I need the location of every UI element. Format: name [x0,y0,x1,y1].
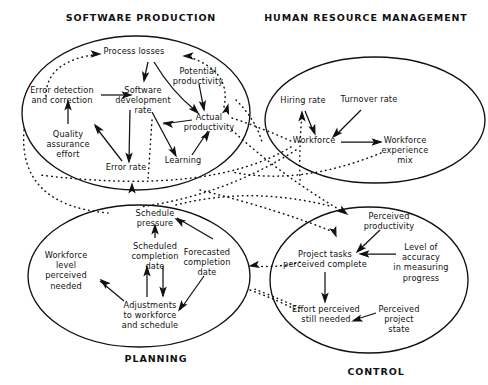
node-line: date [145,261,164,271]
node-hiring-rate: Hiring rate [280,95,325,105]
sector-title-software-production: SOFTWARE PRODUCTION [66,12,216,23]
arrowhead-ah-hiring-rate-bottom [299,112,304,120]
node-schedule-pressure: Schedulepressure [136,208,175,228]
node-line: Level of [404,242,438,252]
arrowhead-ah-project-tasks-from-acc [360,251,368,256]
dotted-link-actual-prod-to-workforce [232,118,291,141]
arrowheads-group [65,51,381,323]
node-line: Forecasted [184,247,230,257]
arrowhead-ah-adjust-from-sched-date [160,288,165,296]
node-line: Error detection [30,85,93,95]
node-forecasted-completion-date: Forecastedcompletiondate [183,247,230,277]
arrowhead-ah-planning-right-in [250,262,259,269]
node-error-rate: Error rate [106,162,147,172]
node-potential-productivity: Potentialproductivity [173,66,224,86]
node-line: development [115,95,171,105]
node-line: pressure [137,218,174,228]
node-learning: Learning [165,155,202,165]
dotted-link-hiring-rate-up-from-below [300,113,302,180]
node-line: productivity [364,221,415,231]
node-line: Hiring rate [280,95,325,105]
node-line: Effort perceived [292,304,360,314]
node-line: rate [134,105,151,115]
arrowhead-ah-project-tasks-top [331,227,339,237]
node-labels-group: Process lossesPotentialproductivityError… [30,46,448,334]
node-line: project [384,314,414,324]
node-line: Workforce [293,135,336,145]
arrowhead-ah-dev-rate-from-losses [141,72,148,81]
node-line: and correction [31,95,92,105]
arrowhead-ah-process-losses-in-right [184,53,192,58]
arrowhead-ah-process-losses-in-left [92,51,100,56]
arrowhead-ah-effort-from-state [352,316,361,324]
node-effort-perceived-still-needed: Effort perceivedstill needed [292,304,360,324]
node-line: state [388,324,410,334]
node-software-development-rate: Softwaredevelopmentrate [115,85,171,115]
node-turnover-rate: Turnover rate [340,94,398,104]
node-line: needed [50,281,82,291]
node-perceived-project-state: Perceivedprojectstate [378,304,419,334]
arrowhead-ah-error-rate-from-dev [126,154,131,162]
dotted-link-sp-bottom-to-control [200,190,336,233]
dotted-link-error-rate-dotted-down [148,120,152,180]
dotted-link-workforce-to-schedule-pressure [140,150,296,207]
node-line: Error rate [106,162,147,172]
arrowhead-ah-actual-from-potential [200,101,207,110]
arrowhead-ah-wf-level-from-adjust [99,278,109,287]
node-line: Learning [165,155,202,165]
node-adjustments-to-workforce-and-schedule: Adjustmentsto workforceand schedule [122,300,179,330]
dotted-link-schedule-pressure-to-control [176,196,330,206]
node-line: productivity [184,122,235,132]
node-line: to workforce [123,310,176,320]
sector-boundary-human-resource-management [265,57,485,183]
node-perceived-productivity: Perceivedproductivity [364,211,415,231]
node-line: Software [124,85,161,95]
sector-title-control: CONTROL [347,366,404,377]
node-line: Adjustments [124,300,177,310]
arrowhead-ah-dev-rate-from-actual [164,120,173,126]
solid-link-dev-rate-to-error-rate [129,110,130,160]
node-line: Potential [179,66,216,76]
solid-link-turnover-rate-to-workforce [335,110,361,136]
node-line: in measuring [393,262,448,272]
arrowhead-ah-effort-from-tasks [322,294,327,302]
node-line: perceived [45,270,87,280]
node-line: Project tasks [298,249,352,259]
arrowhead-ah-qa-from-error-rate [93,123,102,133]
node-line: Perceived [378,304,419,314]
node-actual-productivity: Actualproductivity [184,112,235,132]
node-line: Scheduled [133,241,177,251]
sector-title-human-resource-management: HUMAN RESOURCE MANAGEMENT [264,12,468,23]
node-line: completion [183,257,230,267]
node-line: productivity [173,76,224,86]
node-line: date [197,267,216,277]
node-line: level [56,260,76,270]
diagram-root: Process lossesPotentialproductivityError… [0,0,488,385]
arrowhead-ah-error-rate-bottom [129,184,134,192]
node-line: Process losses [104,46,165,56]
node-line: perceived complete [283,259,367,269]
node-line: assurance [46,139,89,149]
arrowhead-ah-sched-pressure-from-fore [175,217,185,226]
node-line: experience [382,145,429,155]
node-line: Actual [196,112,223,122]
diagram-canvas: Process lossesPotentialproductivityError… [0,0,488,385]
solid-link-dev-rate-to-learning [152,112,175,155]
node-error-detection-correction: Error detectionand correction [30,85,93,105]
node-line: Quality [53,129,83,139]
node-line: accuracy [402,252,440,262]
node-line: Perceived [368,211,409,221]
node-scheduled-completion-date: Scheduledcompletiondate [131,241,178,271]
node-line: effort [56,149,80,159]
node-line: Schedule [136,208,175,218]
node-line: mix [397,155,413,165]
node-line: Workforce [45,250,88,260]
node-workforce-level-perceived-needed: Workforcelevelperceivedneeded [45,250,88,291]
node-workforce: Workforce [293,135,336,145]
node-level-of-accuracy-in-measuring-progress: Level ofaccuracyin measuringprogress [393,242,448,283]
node-line: progress [403,273,440,283]
node-workforce-experience-mix: Workforceexperiencemix [382,135,429,165]
node-line: completion [131,251,178,261]
node-project-tasks-perceived-complete: Project tasksperceived complete [283,249,367,269]
node-line: Workforce [384,135,427,145]
